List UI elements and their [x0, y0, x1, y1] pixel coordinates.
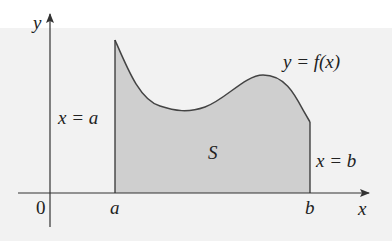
origin-label: 0	[36, 198, 46, 217]
x-axis-label: x	[358, 199, 366, 218]
curve-label: y = f(x)	[283, 52, 340, 71]
left-bound-label: x = a	[58, 108, 98, 127]
region-label: S	[208, 143, 218, 162]
right-bound-label: x = b	[316, 151, 356, 170]
tick-a-label: a	[110, 198, 120, 217]
region-s	[115, 40, 310, 193]
tick-b-label: b	[305, 198, 315, 217]
y-axis-label: y	[33, 13, 41, 32]
area-under-curve-diagram: y x 0 a b y = f(x) S x = a x = b	[0, 0, 392, 241]
